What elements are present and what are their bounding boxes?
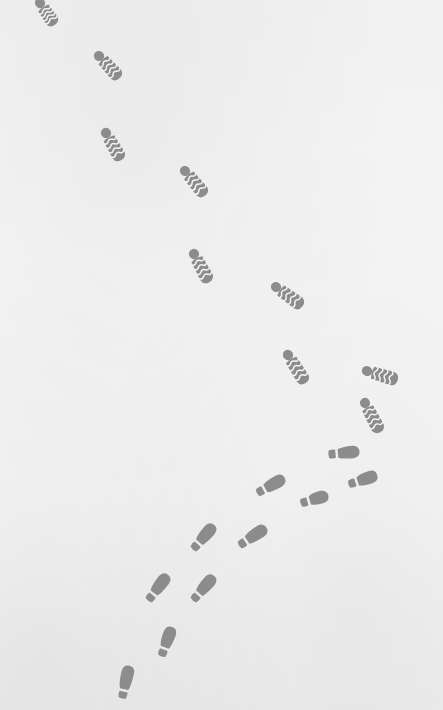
snow-surface	[0, 0, 443, 710]
